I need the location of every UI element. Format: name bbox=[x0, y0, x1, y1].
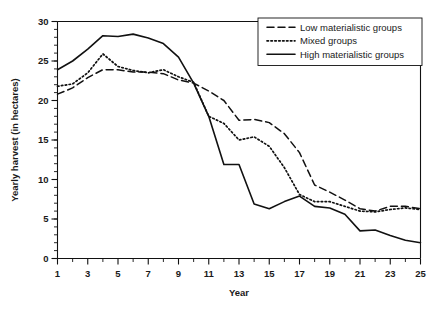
x-axis-title: Year bbox=[229, 287, 249, 298]
y-tick-label: 15 bbox=[38, 134, 49, 145]
y-tick-label: 0 bbox=[43, 253, 48, 264]
y-tick-label: 25 bbox=[38, 55, 49, 66]
x-tick-label: 25 bbox=[415, 268, 426, 279]
x-tick-label: 9 bbox=[176, 268, 181, 279]
legend-label: High materialistic groups bbox=[300, 49, 404, 60]
legend-label: Mixed groups bbox=[300, 35, 357, 46]
x-tick-label: 23 bbox=[385, 268, 396, 279]
y-tick-label: 20 bbox=[38, 95, 49, 106]
y-axis-major-ticks bbox=[52, 22, 58, 259]
y-tick-label: 5 bbox=[43, 213, 49, 224]
line-chart: 051015202530 135791113151719212325 Year … bbox=[0, 0, 437, 309]
legend-label: Low materialistic groups bbox=[300, 22, 402, 33]
series-line-1 bbox=[58, 54, 421, 212]
x-axis-tick-labels: 135791113151719212325 bbox=[55, 268, 427, 279]
y-tick-label: 10 bbox=[38, 174, 49, 185]
y-axis-tick-labels: 051015202530 bbox=[38, 16, 49, 264]
x-tick-label: 17 bbox=[294, 268, 305, 279]
x-tick-label: 7 bbox=[146, 268, 151, 279]
chart-legend: Low materialistic groupsMixed groupsHigh… bbox=[258, 18, 422, 66]
chart-container: 051015202530 135791113151719212325 Year … bbox=[0, 0, 437, 309]
x-axis-major-ticks bbox=[58, 259, 421, 265]
y-axis-title: Yearly harvest (in hectares) bbox=[9, 78, 20, 202]
x-tick-label: 1 bbox=[55, 268, 61, 279]
x-tick-label: 19 bbox=[324, 268, 335, 279]
x-tick-label: 13 bbox=[234, 268, 245, 279]
x-tick-label: 21 bbox=[355, 268, 366, 279]
x-tick-label: 3 bbox=[85, 268, 90, 279]
x-tick-label: 11 bbox=[204, 268, 215, 279]
x-tick-label: 5 bbox=[115, 268, 121, 279]
y-tick-label: 30 bbox=[38, 16, 49, 27]
x-tick-label: 15 bbox=[264, 268, 275, 279]
